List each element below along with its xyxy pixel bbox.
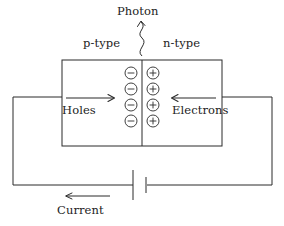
- positive-charge-group: [147, 67, 159, 127]
- photon-arrowhead: [138, 21, 146, 27]
- positive-charge-1: [147, 67, 159, 79]
- negative-charge-3: [125, 99, 137, 111]
- negative-charge-4: [125, 115, 137, 127]
- diagram-canvas: Photon p-type n-type Holes Electrons Cur…: [0, 0, 284, 226]
- positive-charge-4: [147, 115, 159, 127]
- n-type-label: n-type: [163, 38, 200, 50]
- electrons-label: Electrons: [172, 105, 229, 117]
- holes-arrow: [66, 95, 115, 102]
- pn-junction-diagram: [0, 0, 284, 226]
- positive-charge-3: [147, 99, 159, 111]
- negative-charge-group: [125, 67, 137, 127]
- photon-label: Photon: [117, 6, 159, 18]
- photon-wave-arrow: [138, 21, 146, 56]
- holes-label: Holes: [62, 105, 96, 117]
- current-label: Current: [57, 205, 104, 217]
- negative-charge-2: [125, 83, 137, 95]
- current-arrow: [66, 193, 110, 199]
- positive-charge-2: [147, 83, 159, 95]
- negative-charge-1: [125, 67, 137, 79]
- battery-cell: [133, 170, 146, 200]
- photon-squiggle: [140, 22, 144, 56]
- p-type-label: p-type: [83, 38, 120, 50]
- electrons-arrow: [172, 95, 217, 102]
